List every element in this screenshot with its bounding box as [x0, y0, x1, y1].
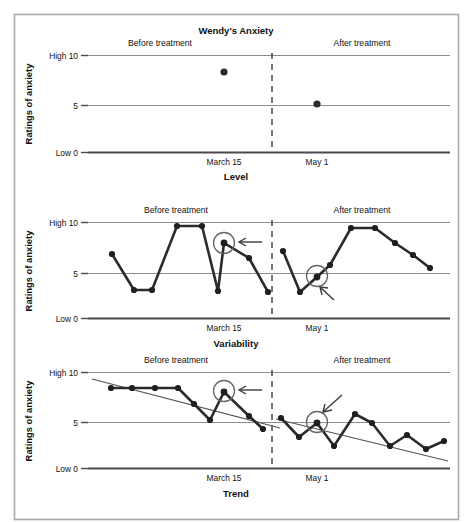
annotation-arrow-after-p2 — [320, 287, 334, 300]
phase-label-after-p2: After treatment — [334, 205, 391, 215]
series-line-after-p2 — [283, 228, 430, 292]
y-axis-label-p3: Ratings of anxiety — [23, 380, 34, 462]
xtick-label-march15-p2: March 15 — [207, 323, 242, 333]
phase-label-before-p2: Before treatment — [144, 205, 209, 215]
figure-container: Wendy's Anxiety Before treatment After t… — [0, 0, 476, 522]
panel-caption-trend: Trend — [223, 488, 249, 499]
panel-caption-variability: Variability — [214, 338, 260, 349]
ytick-label-low0-p2: Low 0 — [56, 314, 79, 324]
panel-trend: Before treatment After treatment High 10… — [23, 355, 450, 499]
anxiety-figure-svg: Wendy's Anxiety Before treatment After t… — [0, 0, 476, 522]
y-axis-label-p1: Ratings of anxiety — [23, 63, 34, 145]
phase-label-before-p3: Before treatment — [144, 355, 209, 365]
xtick-label-march15-p3: March 15 — [207, 473, 242, 483]
ytick-label-high10-p2: High 10 — [49, 218, 78, 228]
trendline-before-p3 — [92, 379, 280, 428]
series-points-before-p2 — [109, 223, 271, 295]
xtick-label-may1-p1: May 1 — [306, 157, 329, 167]
ytick-label-low0-p3: Low 0 — [56, 464, 79, 474]
trendline-after-p3 — [276, 419, 448, 461]
ytick-label-high10-p3: High 10 — [49, 368, 78, 378]
panel-level: Wendy's Anxiety Before treatment After t… — [23, 25, 450, 182]
phase-label-after-p3: After treatment — [334, 355, 391, 365]
annotation-arrow-before-p3 — [239, 386, 262, 394]
chart-title: Wendy's Anxiety — [198, 25, 274, 36]
xtick-label-may1-p3: May 1 — [306, 473, 329, 483]
ytick-label-5-p1: 5 — [73, 101, 78, 111]
data-point-after-level — [313, 100, 320, 107]
ytick-label-5-p3: 5 — [73, 418, 78, 428]
panel-variability: Before treatment After treatment High 10… — [23, 205, 450, 349]
series-line-after-p3 — [281, 414, 444, 449]
annotation-arrow-after-p3 — [323, 395, 342, 412]
series-points-after-p2 — [280, 225, 433, 295]
phase-label-after-p1: After treatment — [334, 38, 391, 48]
phase-label-before-p1: Before treatment — [128, 38, 193, 48]
ytick-label-low0-p1: Low 0 — [56, 148, 79, 158]
annotation-arrow-before-p2 — [239, 238, 262, 246]
panel-caption-level: Level — [224, 171, 248, 182]
ytick-label-5-p2: 5 — [73, 269, 78, 279]
series-line-before-p2 — [112, 226, 268, 292]
xtick-label-march15-p1: March 15 — [207, 157, 242, 167]
xtick-label-may1-p2: May 1 — [306, 323, 329, 333]
ytick-label-high10-p1: High 10 — [49, 51, 78, 61]
y-axis-label-p2: Ratings of anxiety — [23, 230, 34, 312]
data-point-before-level — [220, 68, 227, 75]
